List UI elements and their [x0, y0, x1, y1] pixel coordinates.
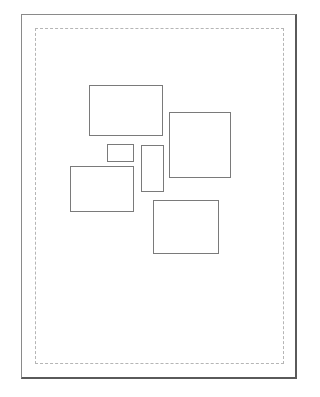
- content-block-small[interactable]: [107, 144, 134, 162]
- content-block-top-left[interactable]: [89, 85, 163, 136]
- content-block-bottom-right[interactable]: [153, 200, 219, 254]
- content-block-bottom-left[interactable]: [70, 166, 134, 212]
- content-block-right[interactable]: [169, 112, 231, 178]
- content-block-tall[interactable]: [141, 145, 164, 192]
